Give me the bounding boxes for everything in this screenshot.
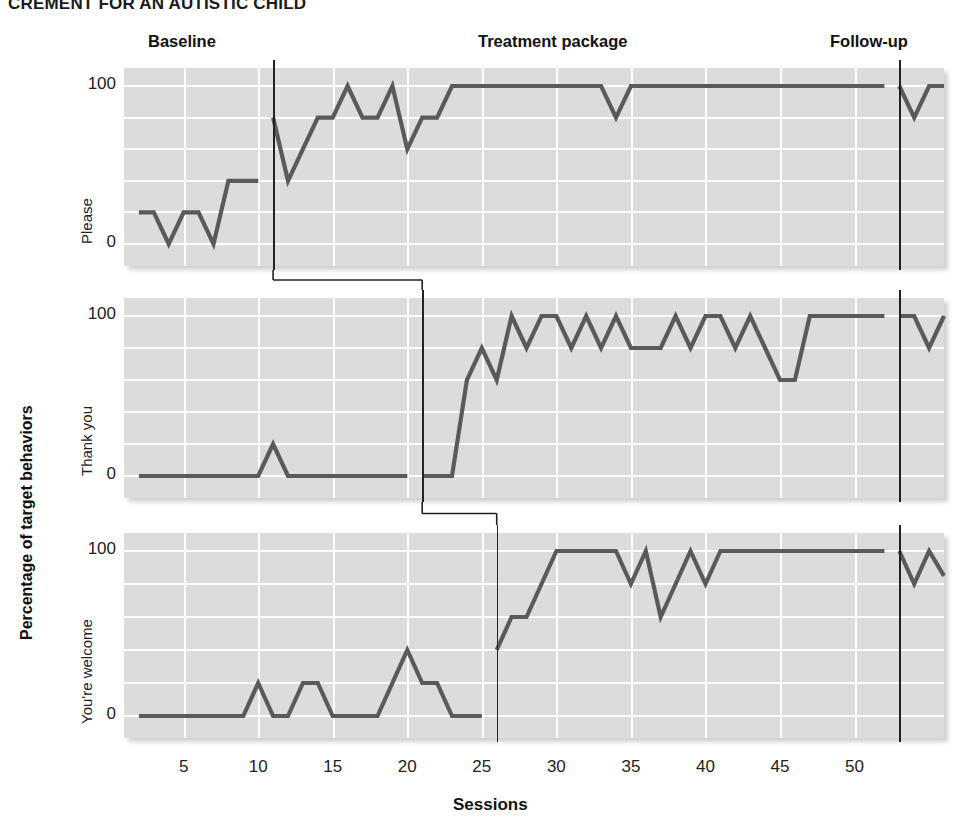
followup-divider-panel-1 <box>899 60 901 270</box>
phase-staircase-connector <box>0 0 974 832</box>
followup-divider-panel-3 <box>899 525 901 742</box>
figure-container: CREMENT FOR AN AUTISTIC CHILD Baseline T… <box>0 0 974 832</box>
followup-divider-panel-2 <box>899 290 901 502</box>
